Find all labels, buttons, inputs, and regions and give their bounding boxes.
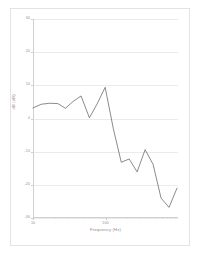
x-minor-tick xyxy=(162,218,163,219)
y-tick-label: -20 xyxy=(25,183,31,187)
x-minor-tick xyxy=(89,218,90,219)
x-tick-label: 100 xyxy=(102,222,108,226)
x-minor-tick xyxy=(175,218,176,219)
x-minor-tick xyxy=(171,218,172,219)
x-minor-tick xyxy=(77,218,78,219)
x-minor-tick xyxy=(156,218,157,219)
series-line-response xyxy=(33,87,177,207)
x-tick-label: 10 xyxy=(31,222,35,226)
x-minor-tick xyxy=(94,218,95,219)
x-minor-tick xyxy=(55,218,56,219)
x-tick-mark xyxy=(106,218,107,220)
x-minor-tick xyxy=(167,218,168,219)
y-tick-label: -10 xyxy=(25,150,31,154)
x-minor-tick xyxy=(84,218,85,219)
data-series-layer xyxy=(33,19,178,218)
x-minor-tick xyxy=(149,218,150,219)
x-axis-title: Frequency (Hz) xyxy=(33,227,178,232)
chart-figure: 3020100-10-20-30 10100 dB (dB) Frequency… xyxy=(0,0,200,254)
y-tick-label: -30 xyxy=(25,216,31,220)
x-tick-mark xyxy=(33,218,34,220)
y-tick-label: 20 xyxy=(26,50,30,54)
y-axis-title: dB (dB) xyxy=(11,94,16,109)
x-minor-tick xyxy=(68,218,69,219)
y-tick-label: 0 xyxy=(28,117,30,121)
plot-area: 3020100-10-20-30 10100 xyxy=(33,19,178,218)
y-tick-label: 10 xyxy=(26,84,30,88)
x-minor-tick xyxy=(102,218,103,219)
x-minor-tick xyxy=(127,218,128,219)
x-minor-tick xyxy=(98,218,99,219)
y-tick-label: 30 xyxy=(26,17,30,21)
x-minor-tick xyxy=(140,218,141,219)
